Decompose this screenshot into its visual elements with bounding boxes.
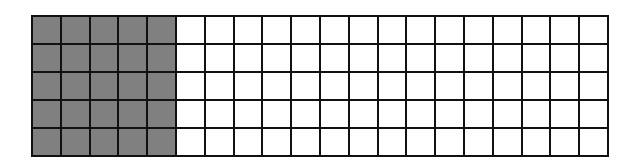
shaded-cell: [62, 101, 89, 127]
empty-cell: [523, 73, 550, 99]
shaded-cell: [33, 17, 60, 43]
empty-cell: [263, 45, 290, 71]
empty-cell: [206, 45, 233, 71]
empty-cell: [494, 73, 521, 99]
shaded-cell: [33, 73, 60, 99]
empty-cell: [321, 73, 348, 99]
shaded-cell: [148, 45, 175, 71]
empty-cell: [523, 17, 550, 43]
empty-cell: [350, 17, 377, 43]
empty-cell: [177, 101, 204, 127]
empty-cell: [321, 17, 348, 43]
empty-cell: [321, 45, 348, 71]
empty-cell: [263, 73, 290, 99]
empty-cell: [263, 129, 290, 155]
empty-cell: [350, 45, 377, 71]
empty-cell: [465, 101, 492, 127]
shaded-cell: [62, 17, 89, 43]
empty-cell: [523, 101, 550, 127]
empty-cell: [436, 101, 463, 127]
empty-cell: [523, 45, 550, 71]
shaded-cell: [33, 101, 60, 127]
shaded-cell: [119, 101, 146, 127]
shaded-cell: [91, 45, 118, 71]
empty-cell: [551, 129, 578, 155]
empty-cell: [321, 129, 348, 155]
empty-cell: [494, 17, 521, 43]
empty-cell: [292, 45, 319, 71]
empty-cell: [407, 73, 434, 99]
empty-cell: [407, 17, 434, 43]
empty-cell: [465, 129, 492, 155]
shaded-cell: [148, 73, 175, 99]
empty-cell: [494, 101, 521, 127]
empty-cell: [206, 101, 233, 127]
empty-cell: [465, 17, 492, 43]
shaded-cell: [119, 17, 146, 43]
empty-cell: [235, 101, 262, 127]
empty-cell: [465, 73, 492, 99]
empty-cell: [263, 17, 290, 43]
empty-cell: [292, 101, 319, 127]
empty-cell: [379, 45, 406, 71]
empty-cell: [494, 45, 521, 71]
shaded-cell: [119, 73, 146, 99]
empty-cell: [206, 73, 233, 99]
shaded-cell: [91, 73, 118, 99]
empty-cell: [580, 17, 607, 43]
empty-cell: [350, 73, 377, 99]
empty-cell: [551, 73, 578, 99]
empty-cell: [436, 17, 463, 43]
empty-cell: [436, 73, 463, 99]
empty-cell: [436, 129, 463, 155]
empty-cell: [580, 129, 607, 155]
empty-cell: [292, 129, 319, 155]
empty-cell: [292, 17, 319, 43]
empty-cell: [436, 45, 463, 71]
shaded-cell: [148, 17, 175, 43]
shaded-cell: [91, 129, 118, 155]
empty-cell: [465, 45, 492, 71]
shaded-cell: [119, 129, 146, 155]
empty-cell: [235, 129, 262, 155]
shaded-cell: [62, 45, 89, 71]
empty-cell: [263, 101, 290, 127]
shaded-cell: [91, 101, 118, 127]
empty-cell: [350, 129, 377, 155]
empty-cell: [321, 101, 348, 127]
empty-cell: [177, 45, 204, 71]
shaded-cell: [62, 129, 89, 155]
empty-cell: [523, 129, 550, 155]
empty-cell: [379, 17, 406, 43]
hundred-grid: [31, 15, 609, 157]
empty-cell: [235, 45, 262, 71]
shaded-cell: [33, 45, 60, 71]
shaded-cell: [119, 45, 146, 71]
empty-cell: [407, 101, 434, 127]
shaded-cell: [62, 73, 89, 99]
empty-cell: [494, 129, 521, 155]
empty-cell: [580, 73, 607, 99]
empty-cell: [206, 129, 233, 155]
shaded-cell: [148, 129, 175, 155]
shaded-cell: [148, 101, 175, 127]
empty-cell: [407, 45, 434, 71]
empty-cell: [379, 73, 406, 99]
empty-cell: [551, 45, 578, 71]
empty-cell: [292, 73, 319, 99]
empty-cell: [177, 73, 204, 99]
empty-cell: [235, 17, 262, 43]
empty-cell: [206, 17, 233, 43]
empty-cell: [580, 101, 607, 127]
empty-cell: [177, 17, 204, 43]
empty-cell: [350, 101, 377, 127]
shaded-cell: [91, 17, 118, 43]
empty-cell: [407, 129, 434, 155]
empty-cell: [177, 129, 204, 155]
empty-cell: [551, 17, 578, 43]
empty-cell: [551, 101, 578, 127]
empty-cell: [580, 45, 607, 71]
empty-cell: [379, 129, 406, 155]
shaded-cell: [33, 129, 60, 155]
empty-cell: [235, 73, 262, 99]
